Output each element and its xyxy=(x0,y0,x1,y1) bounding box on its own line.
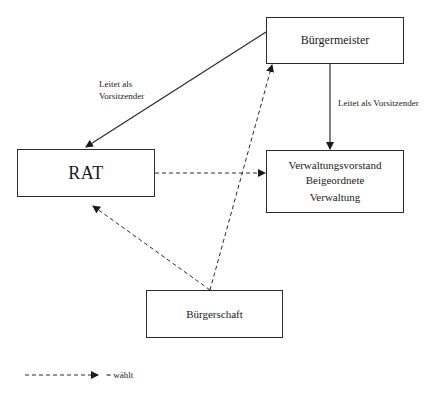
node-buergerschaft: Bürgerschaft xyxy=(146,290,283,338)
node-rat-label: RAT xyxy=(68,163,104,184)
node-verwaltung-line2: Beigeordnete xyxy=(306,173,365,188)
node-verwaltung-line3: Verwaltung xyxy=(310,190,361,205)
edge-label-bm-to-rat-line2: Vorsitzender xyxy=(99,90,144,102)
node-buergermeister: Bürgermeister xyxy=(266,17,404,64)
edge-label-bm-to-verwaltung: Leitet als Vorsitzender xyxy=(338,97,419,109)
node-buergermeister-label: Bürgermeister xyxy=(301,33,369,48)
arrow-buergerschaft-to-buergermeister xyxy=(210,65,272,290)
edge-label-bm-to-rat: Leitet als Vorsitzender xyxy=(99,78,144,102)
node-rat: RAT xyxy=(17,149,155,197)
node-verwaltung-line1: Verwaltungsvorstand xyxy=(289,158,382,173)
legend-label: = wählt xyxy=(106,369,133,381)
node-verwaltung: Verwaltungsvorstand Beigeordnete Verwalt… xyxy=(266,150,404,213)
node-buergerschaft-label: Bürgerschaft xyxy=(186,308,243,320)
arrow-buergerschaft-to-rat xyxy=(93,206,210,290)
edge-label-bm-to-rat-line1: Leitet als xyxy=(99,78,144,90)
